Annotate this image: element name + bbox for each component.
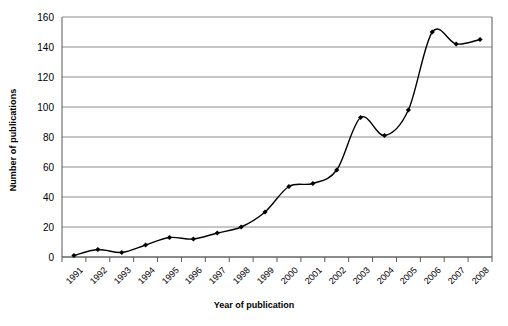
y-tick-label: 80 xyxy=(18,132,54,143)
y-tick-label: 100 xyxy=(18,102,54,113)
y-tick-label: 120 xyxy=(18,72,54,83)
data-point-marker xyxy=(239,224,244,229)
data-point-marker xyxy=(310,181,315,186)
y-tick-label: 20 xyxy=(18,222,54,233)
data-point-marker xyxy=(119,250,124,255)
y-tick-label: 140 xyxy=(18,42,54,53)
x-axis-title: Year of publication xyxy=(0,300,508,310)
data-point-marker xyxy=(167,235,172,240)
y-tick-label: 160 xyxy=(18,12,54,23)
gridlines xyxy=(62,17,492,257)
y-tick-label: 60 xyxy=(18,162,54,173)
data-point-marker xyxy=(215,230,220,235)
series-line xyxy=(74,29,480,256)
data-point-marker xyxy=(454,41,459,46)
data-point-marker xyxy=(95,247,100,252)
y-tick-label: 0 xyxy=(18,252,54,263)
y-tick-label: 40 xyxy=(18,192,54,203)
data-point-marker xyxy=(143,242,148,247)
line-chart: Number of publications 02040608010012014… xyxy=(0,0,508,326)
data-point-marker xyxy=(406,107,411,112)
data-point-marker xyxy=(477,37,482,42)
x-axis-ticks xyxy=(62,257,492,262)
data-point-marker xyxy=(191,236,196,241)
